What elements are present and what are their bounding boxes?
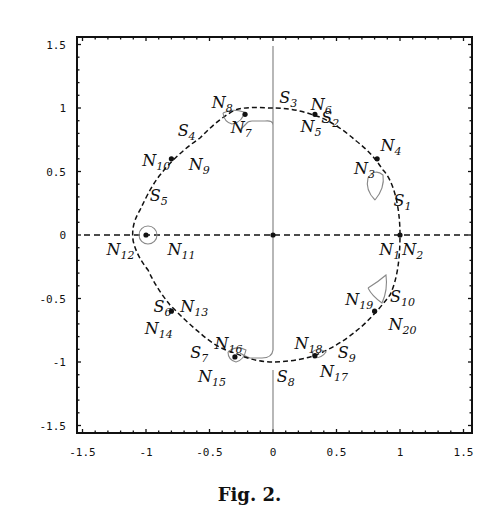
x-tick-label: 0 — [270, 446, 277, 459]
figure-caption: Fig. 2. — [0, 484, 499, 505]
point-label-n1: N1 — [378, 240, 400, 262]
y-tick-label: 1 — [59, 102, 66, 115]
point-label-n9: N9 — [188, 155, 210, 177]
point-label-n5: N5 — [300, 117, 322, 139]
equilibrium-dot — [397, 232, 402, 237]
point-label-n3: N3 — [353, 159, 375, 181]
equilibrium-dot — [242, 112, 247, 117]
equilibrium-dot — [270, 232, 275, 237]
y-tick-label: 0.5 — [46, 166, 66, 179]
figure-plot: -1.5-1-0.500.511.51.510.50-0.5-1-1.5 N1N… — [0, 0, 499, 518]
point-label-s1: S1 — [394, 191, 412, 213]
point-label-n10: N10 — [141, 151, 170, 173]
point-label-n14: N14 — [144, 319, 173, 341]
point-label-s10: S10 — [390, 287, 415, 309]
point-label-s7: S7 — [190, 343, 208, 365]
y-tick-label: 0 — [59, 229, 66, 242]
x-tick-label: 1.5 — [454, 446, 474, 459]
point-label-n8: N8 — [211, 93, 233, 115]
point-label-s4: S4 — [178, 121, 196, 143]
point-label-n19: N19 — [344, 290, 373, 312]
point-label-n4: N4 — [380, 136, 402, 158]
y-tick-label: -0.5 — [40, 293, 67, 306]
x-tick-label: 0.5 — [327, 446, 347, 459]
y-tick-label: -1.5 — [40, 420, 67, 433]
point-labels: N1N2S1N3N4S2N5N6S3N7N8S4N10N9S5N11N12S6N… — [106, 88, 424, 389]
x-tick-label: 1 — [397, 446, 404, 459]
point-label-n20: N20 — [388, 315, 417, 337]
point-label-s6: S6 — [154, 297, 172, 319]
point-label-n12: N12 — [106, 240, 135, 262]
point-label-s8: S8 — [277, 367, 295, 389]
point-label-s5: S5 — [150, 186, 168, 208]
point-label-n15: N15 — [197, 367, 226, 389]
point-label-n17: N17 — [319, 362, 348, 384]
point-label-n16: N16 — [214, 334, 243, 356]
point-label-n2: N2 — [401, 240, 423, 262]
equilibrium-dot — [375, 156, 380, 161]
point-label-s9: S9 — [338, 343, 356, 365]
point-label-s3: S3 — [279, 88, 297, 110]
y-tick-label: -1 — [53, 356, 66, 369]
y-tick-label: 1.5 — [46, 39, 66, 52]
point-label-n18: N18 — [294, 334, 323, 356]
point-label-n6: N6 — [310, 95, 332, 117]
x-tick-label: -1.5 — [69, 446, 96, 459]
x-tick-label: -1 — [139, 446, 152, 459]
point-label-n11: N11 — [167, 240, 196, 262]
point-label-n13: N13 — [179, 297, 208, 319]
x-tick-label: -0.5 — [196, 446, 223, 459]
equilibrium-dot — [143, 232, 148, 237]
